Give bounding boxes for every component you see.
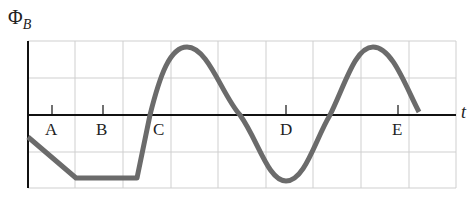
marker-e: E xyxy=(392,120,402,140)
marker-a: A xyxy=(45,120,57,140)
marker-b: B xyxy=(96,120,107,140)
marker-d: D xyxy=(280,120,292,140)
t-axis-label: t xyxy=(461,102,466,123)
marker-c: C xyxy=(153,120,164,140)
chart-plot xyxy=(0,0,473,205)
tick-marks xyxy=(52,105,398,115)
